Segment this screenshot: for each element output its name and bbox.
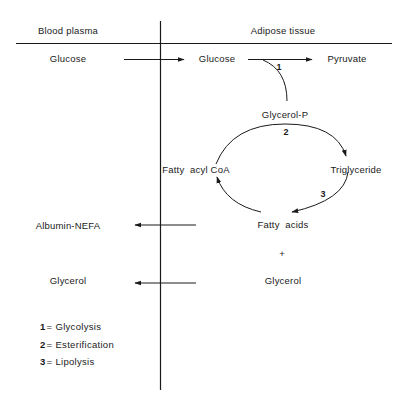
legend: 1=Glycolysis 2=Esterification 3=Lipolysi… — [40, 318, 114, 371]
albumin-nefa-label: Albumin-NEFA — [36, 220, 101, 231]
step-2-number: 2 — [283, 127, 288, 137]
legend-label: Lipolysis — [55, 356, 94, 367]
legend-eq: = — [47, 356, 53, 367]
step-1-number: 1 — [276, 62, 281, 72]
blood-plasma-header: Blood plasma — [38, 25, 98, 36]
plasma-glycerol-label: Glycerol — [50, 275, 86, 286]
legend-eq: = — [47, 321, 53, 332]
glycerol-p-label: Glycerol-P — [262, 109, 308, 120]
legend-item-glycolysis: 1=Glycolysis — [40, 318, 114, 336]
plasma-glucose-label: Glucose — [50, 53, 86, 64]
legend-item-esterification: 2=Esterification — [40, 336, 114, 354]
fatty-acids-label: Fatty acids — [258, 219, 309, 230]
legend-key: 1 — [40, 321, 46, 332]
legend-key: 3 — [40, 356, 46, 367]
adipose-metabolism-diagram: Blood plasma Adipose tissue Glucose Albu… — [0, 0, 408, 409]
legend-label: Glycolysis — [55, 321, 101, 332]
adipose-tissue-header: Adipose tissue — [251, 25, 316, 36]
triglyceride-label: Triglyceride — [330, 164, 381, 175]
step-3-number: 3 — [320, 189, 325, 199]
legend-key: 2 — [40, 339, 46, 350]
fatty-acyl-coa-label: Fatty acyl CoA — [162, 164, 229, 175]
esterification-arc — [216, 124, 346, 164]
legend-item-lipolysis: 3=Lipolysis — [40, 353, 114, 371]
legend-label: Esterification — [55, 339, 114, 350]
tissue-glucose-label: Glucose — [199, 53, 235, 64]
tissue-glycerol-label: Glycerol — [265, 275, 301, 286]
plus-sign: + — [279, 248, 285, 259]
glycerol-p-branch-curve — [263, 60, 287, 101]
legend-eq: = — [47, 339, 53, 350]
fatty-acid-activation-arc — [217, 177, 261, 212]
pyruvate-label: Pyruvate — [327, 53, 366, 64]
